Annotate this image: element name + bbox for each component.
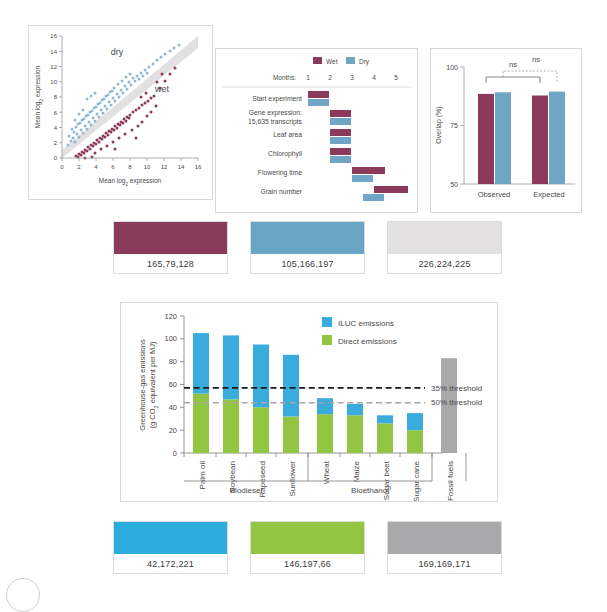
gantt-bar-wet-flowering-time (352, 167, 385, 174)
ghg-category-sunflower: Sunflower (288, 461, 297, 497)
svg-text:6: 6 (111, 164, 115, 170)
svg-text:14: 14 (50, 49, 57, 55)
ghg-bar-sugar-beet (377, 415, 393, 453)
overlap-category-observed: Observed (478, 190, 511, 199)
ghg-legend-swatch-direct (322, 335, 332, 345)
svg-text:8: 8 (54, 94, 58, 100)
svg-text:100: 100 (164, 334, 177, 343)
threshold-label-35: 35% threshold (431, 384, 482, 393)
legend-swatch-dry (346, 57, 355, 64)
svg-text:4: 4 (54, 125, 58, 131)
svg-text:4: 4 (372, 74, 376, 81)
row-label-flowering-time: Flowering time (258, 169, 302, 177)
identity-band (62, 36, 198, 158)
svg-text:100: 100 (446, 64, 458, 71)
swatch-rgb-fossil-grey: 169,169,171 (388, 554, 501, 573)
x-ticks (62, 158, 198, 161)
svg-text:4: 4 (94, 164, 98, 170)
svg-text:0: 0 (173, 449, 177, 458)
svg-text:16: 16 (50, 33, 57, 39)
svg-text:1: 1 (306, 74, 310, 81)
svg-text:8: 8 (128, 164, 132, 170)
swatch-chip-direct-green: 146,197,66 (250, 521, 365, 574)
swatch-color-iluc-blue (114, 522, 227, 554)
significance-bracket-solid (486, 77, 540, 83)
row-label-chlorophyll: Chlorophyll (268, 150, 302, 158)
ghg-bar-maize (347, 404, 363, 453)
gantt-bar-wet-start-experiment (308, 91, 329, 98)
gantt-svg: Wet Dry Months: 123 45 Start experiment … (216, 49, 417, 212)
ghg-bar-sugar-cane (407, 413, 423, 453)
ghg-y-ticks (180, 316, 184, 453)
svg-text:120: 120 (164, 312, 177, 321)
x-tick-labels: 024 6810 121416 (60, 164, 202, 170)
wet-annotation: wet (154, 84, 170, 94)
scatter-y-axis-label: Mean log2 expression (34, 65, 44, 128)
swatch-color-direct-green (251, 522, 364, 554)
overlap-bars-panel: 1007550 Overlap (%) ns ns Observed Expec… (430, 48, 582, 213)
svg-text:2: 2 (328, 74, 332, 81)
swatch-chip-neutral-grey: 226,224,225 (387, 221, 502, 274)
swatch-color-neutral-grey (388, 222, 501, 254)
gantt-timeline-panel: Wet Dry Months: 123 45 Start experiment … (215, 48, 418, 213)
swatch-chip-dry-blue: 105,166,197 (250, 221, 365, 274)
gantt-bar-dry-gene-expression (330, 118, 351, 125)
overlap-bar-expected-wet (532, 96, 548, 185)
overlap-bar-observed-wet (478, 94, 494, 184)
svg-text:0: 0 (60, 164, 64, 170)
ghg-x-ticks (184, 453, 432, 457)
significance-label-1: ns (509, 60, 517, 69)
swatch-rgb-iluc-blue: 42,172,221 (114, 554, 227, 573)
threshold-label-50: 50% threshold (431, 398, 482, 407)
ghg-bar-sunflower (283, 355, 299, 453)
svg-text:12: 12 (161, 164, 168, 170)
svg-text:5: 5 (394, 74, 398, 81)
ghg-legend-swatch-iluc (322, 317, 332, 327)
swatch-color-fossil-grey (388, 522, 501, 554)
row-label-start-experiment: Start experiment (252, 95, 302, 103)
ghg-category-palm-oil: Palm oil (198, 461, 207, 490)
svg-text:12: 12 (50, 64, 57, 70)
gantt-bar-dry-grain-number (363, 194, 384, 201)
svg-text:20: 20 (169, 426, 177, 435)
ghg-svg: 02040 6080100 120 Greenhouse-gas emissio… (121, 303, 497, 501)
y-ticks (59, 36, 62, 158)
decorative-circle (6, 578, 40, 612)
gantt-bar-wet-gene-expression (330, 110, 351, 117)
ghg-category-wheat: Wheat (322, 460, 331, 484)
svg-text:10: 10 (144, 164, 151, 170)
svg-text:75: 75 (450, 122, 458, 129)
y-tick-labels: 024 6810 121416 (50, 33, 57, 161)
month-tick-labels: 123 45 (306, 74, 398, 81)
svg-text:6: 6 (54, 110, 58, 116)
gantt-bar-wet-leaf-area (330, 129, 351, 136)
legend-label-wet: Wet (326, 58, 338, 65)
months-axis-label: Months: (273, 74, 296, 81)
legend-label-dry: Dry (359, 58, 370, 66)
ghg-legend-label-iluc: ILUC emissions (338, 319, 394, 328)
svg-text:14: 14 (178, 164, 185, 170)
legend-swatch-wet (313, 57, 322, 64)
swatch-chip-iluc-blue: 42,172,221 (113, 521, 228, 574)
svg-text:2: 2 (77, 164, 81, 170)
overlap-category-expected: Expected (533, 190, 564, 199)
svg-text:10: 10 (50, 79, 57, 85)
svg-text:80: 80 (169, 357, 177, 366)
swatch-color-wet-maroon (114, 222, 227, 254)
overlap-y-ticks (460, 67, 464, 184)
ghg-y-axis-label-line2: (g CO2 equivalent per MJ) (148, 341, 159, 428)
gantt-bar-wet-grain-number (374, 186, 408, 193)
gantt-bar-dry-leaf-area (330, 137, 351, 144)
swatch-chip-wet-maroon: 165,79,128 (113, 221, 228, 274)
swatch-rgb-direct-green: 146,197,66 (251, 554, 364, 573)
scatter-x-axis-label: Mean log2 expression (99, 177, 162, 187)
scatter-plot-svg: 024 6810 121416 024 6810 121416 dry wet … (29, 26, 212, 199)
row-label-grain-number: Grain number (260, 188, 302, 195)
row-label-gene-expression-2: 15,635 transcripts (248, 118, 303, 126)
ghg-bar-rapeseed (253, 345, 269, 454)
swatch-chip-fossil-grey: 169,169,171 (387, 521, 502, 574)
ghg-bar-palm-oil (193, 333, 209, 453)
overlap-y-tick-labels: 1007550 (446, 64, 458, 188)
ghg-y-axis-label-line1: Greenhouse-gas emissions (138, 339, 147, 431)
svg-text:3: 3 (350, 74, 354, 81)
